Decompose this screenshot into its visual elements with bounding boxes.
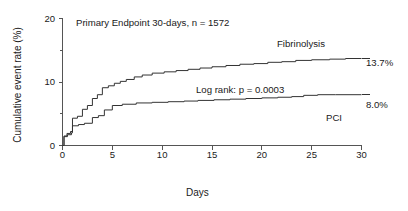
x-tick-label: 10 <box>149 150 175 160</box>
logrank-annotation: Log rank: p = 0.0003 <box>196 85 284 95</box>
end-value-fibrinolysis: 13.7% <box>366 58 393 68</box>
x-tick-label: 20 <box>249 150 275 160</box>
y-tick-label: 20 <box>33 14 55 24</box>
series-label-pci: PCI <box>326 113 342 123</box>
end-value-pci: 8.0% <box>366 100 388 110</box>
y-tick-label: 0 <box>33 141 55 151</box>
series-label-fibrinolysis: Fibrinolysis <box>277 39 325 49</box>
plot-area <box>0 0 408 211</box>
x-tick-label: 30 <box>349 150 375 160</box>
x-tick-label: 5 <box>99 150 125 160</box>
x-tick-label: 15 <box>199 150 225 160</box>
chart-container: Primary Endpoint 30-days, n = 1572 Fibri… <box>0 0 408 211</box>
y-axis-title: Cumulative event rate (%) <box>13 15 23 155</box>
chart-title: Primary Endpoint 30-days, n = 1572 <box>76 18 229 28</box>
x-axis-title: Days <box>186 188 209 198</box>
x-tick-label: 0 <box>50 150 76 160</box>
curves-group <box>63 59 362 146</box>
x-tick-label: 25 <box>299 150 325 160</box>
curve-pci <box>63 95 362 146</box>
y-tick-label: 10 <box>33 77 55 87</box>
curve-fibrinolysis <box>63 59 362 146</box>
